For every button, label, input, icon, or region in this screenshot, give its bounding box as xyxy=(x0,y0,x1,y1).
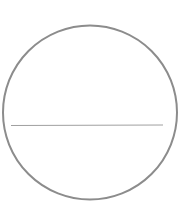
circle-outline xyxy=(3,26,177,200)
circle-diagram xyxy=(0,0,183,202)
horizontal-chord xyxy=(11,125,163,126)
